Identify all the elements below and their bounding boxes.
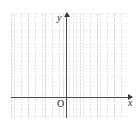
x-axis-label: x (128, 98, 132, 108)
y-axis-label: y (57, 13, 61, 23)
y-axis-line (66, 13, 67, 118)
origin-label: O (57, 99, 64, 109)
x-axis-line (11, 97, 132, 98)
graph-paper-grid (11, 13, 128, 118)
y-axis-arrow-icon (64, 12, 70, 17)
coordinate-grid-figure: y x O (0, 0, 139, 132)
